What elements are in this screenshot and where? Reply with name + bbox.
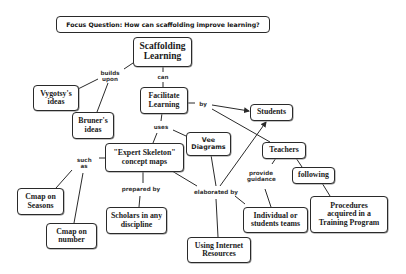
concept-cmap-on-number[interactable]: Cmap on number [46, 223, 97, 249]
concept-cmap-on-seasons[interactable]: Cmap on Seasons [17, 188, 64, 215]
link-uses: uses [154, 124, 168, 130]
concept-label: Scholars in any discipline [110, 212, 163, 228]
concept-label: Cmap on Seasons [22, 193, 59, 209]
concept-label: Using Internet Resources [192, 242, 246, 258]
link-prepared-by: prepared by [122, 186, 161, 192]
concept-label: Scaffolding Learning [137, 42, 188, 62]
link-such-as: such as [77, 157, 91, 170]
concept-vygotsky-ideas[interactable]: Vygotsy's ideas [33, 85, 79, 111]
concept-label: Cmap on number [51, 228, 92, 244]
concept-expert-skeleton-maps[interactable]: "Expert Skeleton" concept maps [105, 143, 184, 172]
concept-label: Vee Diagrams [191, 137, 226, 150]
concept-following[interactable]: following [292, 167, 335, 184]
concept-individual-students-teams[interactable]: Individual or students teams [243, 207, 308, 233]
concept-label: Vygotsy's ideas [38, 90, 74, 106]
concept-label: Teachers [269, 146, 299, 154]
concept-using-internet-resources[interactable]: Using Internet Resources [187, 237, 251, 263]
link-elaborated-by: elaborated by [194, 189, 238, 195]
concept-scaffolding-learning[interactable]: Scaffolding Learning [133, 37, 192, 67]
focus-question: Focus Question: How can scaffolding impr… [56, 16, 270, 33]
concept-label: Bruner's ideas [77, 117, 109, 133]
concept-map-canvas: Focus Question: How can scaffolding impr… [0, 0, 406, 274]
concept-facilitate-learning[interactable]: Facilitate Learning [140, 87, 188, 114]
concept-label: Facilitate Learning [144, 92, 184, 108]
concept-bruner-ideas[interactable]: Bruner's ideas [72, 112, 114, 139]
link-by: by [199, 101, 207, 107]
concept-label: "Expert Skeleton" concept maps [110, 149, 179, 165]
concept-label: Students [257, 108, 286, 116]
concept-teachers[interactable]: Teachers [262, 142, 306, 159]
concept-label: Individual or students teams [247, 212, 304, 228]
concept-students[interactable]: Students [250, 104, 293, 121]
concept-procedures-training-program[interactable]: Procedures acquired in a Training Progra… [310, 196, 388, 233]
link-provide-guidance: provide guidance [247, 170, 275, 183]
concept-vee-diagrams[interactable]: Vee Diagrams [186, 132, 231, 156]
link-builds-upon: builds upon [99, 70, 121, 83]
link-can: can [157, 74, 168, 80]
concept-label: Procedures acquired in a Training Progra… [315, 202, 383, 227]
concept-scholars-any-discipline[interactable]: Scholars in any discipline [106, 207, 167, 234]
concept-label: following [298, 171, 329, 179]
